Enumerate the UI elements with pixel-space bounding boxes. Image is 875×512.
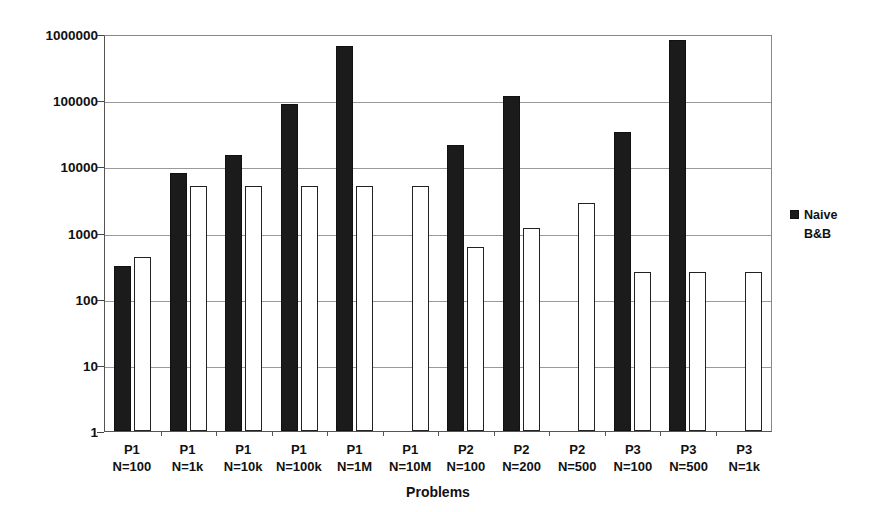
legend-swatch-filled-icon [790, 210, 799, 219]
category-size: N=200 [494, 458, 550, 475]
category-size: N=1k [160, 458, 216, 475]
bar-group [105, 36, 161, 431]
y-axis-tick-labels: 1101001000100001000001000000 [28, 0, 104, 512]
category-size: N=500 [661, 458, 717, 475]
bar-group [494, 36, 550, 431]
legend-item: B&B [790, 224, 868, 243]
bar-naive [281, 104, 298, 431]
y-tick-label: 1000 [68, 226, 98, 241]
y-tick-mark [97, 101, 104, 102]
bar-bnb [190, 186, 207, 431]
y-tick-mark [97, 366, 104, 367]
category-problem: P2 [458, 442, 474, 457]
y-tick-mark [97, 300, 104, 301]
category-problem: P2 [514, 442, 530, 457]
category-size: N=1k [716, 458, 772, 475]
bar-naive [614, 132, 631, 431]
bar-bnb [467, 247, 484, 431]
category-size: N=10M [382, 458, 438, 475]
bar-group [660, 36, 716, 431]
bar-naive [170, 173, 187, 431]
category-problem: P3 [681, 442, 697, 457]
x-category-label: P1N=10k [215, 441, 271, 481]
category-size: N=500 [549, 458, 605, 475]
bar-bnb [134, 257, 151, 431]
bar-bnb [412, 186, 429, 431]
bar-group [383, 36, 439, 431]
bar-bnb [745, 272, 762, 431]
bar-naive [669, 40, 686, 431]
category-problem: P2 [569, 442, 585, 457]
legend-label: B&B [804, 227, 831, 241]
bar-bnb [245, 186, 262, 431]
bar-bnb [523, 228, 540, 431]
bar-bnb [301, 186, 318, 431]
bar-naive [225, 155, 242, 431]
category-size: N=100 [605, 458, 661, 475]
bar-bnb [689, 272, 706, 431]
category-problem: P1 [402, 442, 418, 457]
x-category-label: P3N=1k [716, 441, 772, 481]
bar-naive [114, 266, 131, 431]
x-category-label: P1N=10M [382, 441, 438, 481]
category-size: N=10k [215, 458, 271, 475]
bar-bnb [578, 203, 595, 431]
category-problem: P1 [235, 442, 251, 457]
category-problem: P3 [625, 442, 641, 457]
x-axis-title: Problems [104, 484, 772, 500]
category-size: N=100k [271, 458, 327, 475]
x-category-label: P1N=1M [327, 441, 383, 481]
y-tick-label: 10 [83, 358, 98, 373]
x-axis-category-labels: P1N=100P1N=1kP1N=10kP1N=100kP1N=1MP1N=10… [104, 441, 772, 481]
y-tick-label: 10000 [60, 160, 98, 175]
category-problem: P1 [180, 442, 196, 457]
bar-group [605, 36, 661, 431]
y-tick-mark [97, 432, 104, 433]
x-category-label: P1N=100k [271, 441, 327, 481]
category-problem: P1 [124, 442, 140, 457]
bar-bnb [356, 186, 373, 431]
bar-group [549, 36, 605, 431]
y-tick-mark [97, 167, 104, 168]
x-category-label: P2N=200 [494, 441, 550, 481]
x-category-label: P1N=100 [104, 441, 160, 481]
bar-group [716, 36, 772, 431]
category-size: N=100 [438, 458, 494, 475]
category-problem: P1 [291, 442, 307, 457]
bar-naive [447, 145, 464, 431]
category-size: N=1M [327, 458, 383, 475]
plot-area [104, 35, 772, 432]
bars-layer [105, 36, 771, 431]
y-tick-label: 100000 [53, 94, 98, 109]
bar-bnb [634, 272, 651, 431]
y-tick-mark [97, 234, 104, 235]
memory-usage-bar-chart: Total memory used [kBytes] 1101001000100… [0, 0, 875, 512]
x-category-label: P2N=500 [549, 441, 605, 481]
bar-naive [336, 46, 353, 431]
category-problem: P1 [347, 442, 363, 457]
bar-group [161, 36, 217, 431]
bar-group [438, 36, 494, 431]
y-tick-mark [97, 35, 104, 36]
bar-group [327, 36, 383, 431]
legend-label: Naive [804, 208, 837, 222]
x-category-label: P3N=100 [605, 441, 661, 481]
bar-group [216, 36, 272, 431]
x-category-label: P1N=1k [160, 441, 216, 481]
category-size: N=100 [104, 458, 160, 475]
category-problem: P3 [736, 442, 752, 457]
legend-swatch-open-icon [790, 229, 799, 238]
y-tick-label: 1000000 [45, 28, 98, 43]
x-category-label: P3N=500 [661, 441, 717, 481]
legend: NaiveB&B [790, 205, 868, 243]
y-tick-label: 100 [75, 292, 98, 307]
legend-item: Naive [790, 205, 868, 224]
x-category-label: P2N=100 [438, 441, 494, 481]
bar-group [272, 36, 328, 431]
bar-naive [503, 96, 520, 431]
